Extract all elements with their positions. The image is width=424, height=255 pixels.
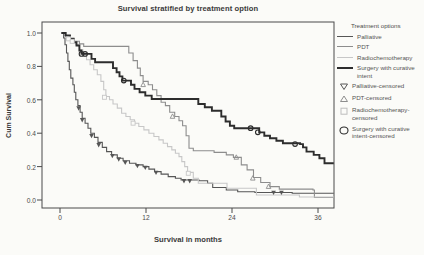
legend-item-radiochemotherapy: Radiochemotherapy	[337, 54, 423, 62]
legend-item-radiochemotherapy-censored: Radiochemotherapy-censored	[337, 106, 423, 121]
triangle-up-icon	[338, 94, 350, 103]
palliative-line-swatch	[337, 36, 353, 37]
circle-icon	[338, 125, 350, 136]
legend-item-palliative-censored: Palliative-censored	[337, 82, 423, 91]
legend-item-surgery: Surgery with curative intent	[337, 64, 423, 79]
legend: Treatment options Palliative PDT Radioch…	[337, 22, 423, 143]
pdt-line-swatch	[337, 46, 353, 47]
legend-item-pdt-censored: PDT-censored	[337, 94, 423, 103]
legend-title: Treatment options	[351, 22, 423, 30]
legend-label: Palliative	[357, 33, 417, 41]
legend-item-surgery-censored: Surgery with curative intent-censored	[337, 125, 423, 140]
legend-label: Radiochemotherapy	[357, 54, 417, 62]
legend-label: PDT-censored	[352, 94, 412, 102]
legend-label: PDT	[357, 43, 417, 51]
legend-item-palliative: Palliative	[337, 33, 423, 41]
triangle-down-icon	[338, 82, 350, 91]
survival-figure: Survival stratified by treatment option …	[0, 0, 424, 255]
legend-label: Surgery with curative intent-censored	[352, 125, 412, 140]
legend-item-pdt: PDT	[337, 43, 423, 51]
square-icon	[338, 106, 350, 115]
legend-label: Radiochemotherapy-censored	[352, 106, 412, 121]
legend-label: Surgery with curative intent	[357, 64, 417, 79]
surgery-line-swatch	[337, 67, 353, 69]
legend-label: Palliative-censored	[352, 82, 412, 90]
radiochemotherapy-line-swatch	[337, 57, 353, 58]
